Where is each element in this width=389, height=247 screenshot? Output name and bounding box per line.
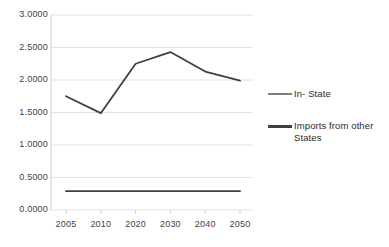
legend-label-in-state: In- State [294,88,386,100]
y-axis-tick-label: 2.0000 [2,75,48,84]
y-axis-tick-label: 1.5000 [2,108,48,117]
legend-item-imports[interactable]: Imports from other States [268,120,386,144]
series-line-in-state [66,52,240,113]
y-axis-tick-label: 2.5000 [2,43,48,52]
y-axis-tick-label: 0.0000 [2,205,48,214]
y-axis-tick-label: 1.0000 [2,140,48,149]
legend-swatch-in-state-icon [268,93,292,95]
legend-label-imports: Imports from other States [294,120,386,144]
legend-item-in-state[interactable]: In- State [268,88,386,101]
x-axis-ticks [66,210,240,214]
y-axis-tick-label: 0.5000 [2,173,48,182]
line-chart: 0.00000.50001.00001.50002.00002.50003.00… [0,0,389,247]
x-axis-tick-label: 2050 [220,220,260,229]
chart-legend: In- State Imports from other States [268,88,386,163]
legend-swatch-imports-icon [268,125,292,128]
y-axis-tick-label: 3.0000 [2,10,48,19]
gridlines [51,15,253,210]
